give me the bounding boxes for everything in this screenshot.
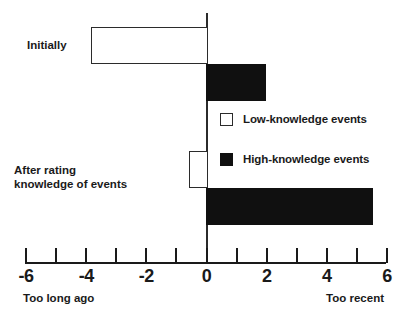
category-label-after-rating: After rating knowledge of events	[14, 163, 139, 191]
legend: Low-knowledge events High-knowledge even…	[220, 112, 395, 192]
x-axis-tick	[206, 248, 208, 263]
x-axis-tick	[326, 248, 328, 263]
x-axis-tick-label: 4	[307, 266, 347, 287]
x-axis-tick	[266, 248, 268, 263]
x-axis-tick	[85, 248, 87, 263]
legend-item-low-knowledge: Low-knowledge events	[220, 112, 395, 126]
bar-chart: Initially Low-knowledge events High-know…	[0, 0, 402, 329]
bar-after-rating-high-knowledge	[206, 188, 373, 225]
legend-label-high-knowledge: High-knowledge events	[243, 153, 369, 165]
x-axis-tick	[356, 248, 358, 263]
x-axis-tick-label: -2	[126, 266, 166, 287]
legend-item-high-knowledge: High-knowledge events	[220, 152, 395, 166]
x-axis-tick-label: 6	[367, 266, 402, 287]
legend-label-low-knowledge: Low-knowledge events	[243, 113, 367, 125]
x-axis-tick-label: -4	[66, 266, 106, 287]
bar-initially-low-knowledge	[91, 27, 208, 64]
x-axis-tick	[236, 248, 238, 263]
x-axis-tick	[386, 248, 388, 263]
category-label-after-rating-line2: knowledge of events	[14, 177, 139, 191]
category-label-after-rating-line1: After rating	[14, 163, 139, 177]
legend-swatch-filled-square-icon	[220, 153, 233, 166]
legend-swatch-open-square-icon	[220, 113, 233, 126]
axis-caption-too-long-ago: Too long ago	[23, 292, 94, 304]
x-axis-tick	[25, 248, 27, 263]
bar-initially-high-knowledge	[206, 64, 266, 101]
x-axis-tick	[175, 248, 177, 263]
x-axis-tick	[145, 248, 147, 263]
bar-after-rating-low-knowledge	[189, 151, 208, 188]
axis-caption-too-recent: Too recent	[326, 292, 384, 304]
x-axis-tick-label: -6	[6, 266, 46, 287]
x-axis-tick-label: 2	[247, 266, 287, 287]
x-axis-tick	[55, 248, 57, 263]
x-axis-tick	[296, 248, 298, 263]
x-axis-tick-label: 0	[187, 266, 227, 287]
x-axis-tick	[115, 248, 117, 263]
